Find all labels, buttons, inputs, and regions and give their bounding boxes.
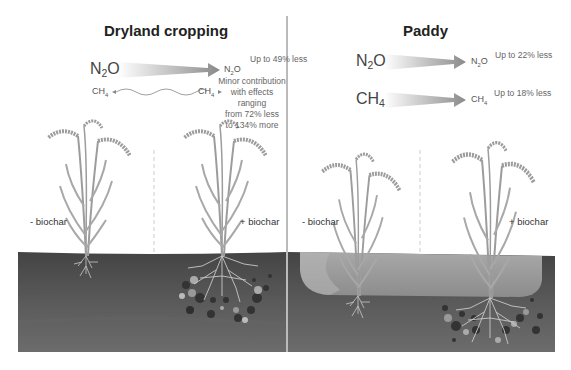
ch4-wavy-arrow [116,89,206,95]
ch4-label-dryland-from: CH4 [92,86,108,98]
n2o-label-dryland-from: N2O [90,60,120,79]
panel-title-paddy: Paddy [403,22,448,39]
n2o-arrow-paddy [384,54,466,70]
n2o-label-paddy-from: N2O [356,52,386,71]
ch4-label-dryland-to: CH4 [198,86,214,98]
n2o-note-paddy: Up to 22% less [495,50,552,61]
label-dryland-minus-biochar: - biochar [30,216,67,227]
n2o-label-dryland-to: N2O [224,64,241,76]
n2o-note-dryland: Up to 49% less [250,54,307,65]
plant-dryland-minus [48,121,130,256]
label-dryland-plus-biochar: + biochar [240,216,279,227]
ch4-label-paddy-to: CH4 [471,94,487,106]
ch4-label-paddy-from: CH4 [356,90,385,109]
ch4-note-paddy: Up to 18% less [494,88,551,99]
n2o-arrow-dryland [118,62,220,78]
panel-title-dryland: Dryland cropping [104,22,228,39]
ch4-note-dryland: Minor contribution with effects ranging … [216,76,288,131]
soil-dryland [18,252,286,352]
n2o-label-paddy-to: N2O [471,56,488,68]
ch4-arrow-paddy [384,92,466,108]
label-paddy-plus-biochar: + biochar [509,216,548,227]
label-paddy-minus-biochar: - biochar [302,216,339,227]
plant-dryland-plus [184,121,266,256]
